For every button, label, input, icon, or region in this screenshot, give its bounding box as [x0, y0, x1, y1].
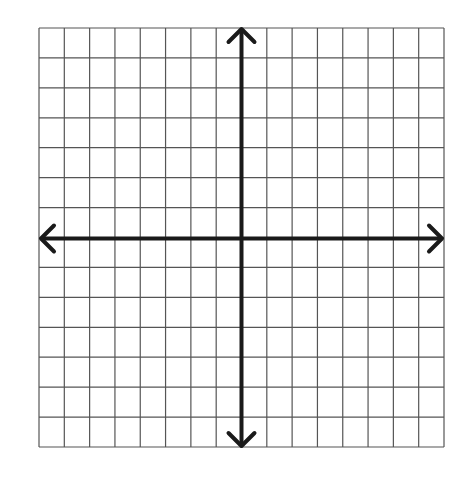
- axes: [41, 29, 442, 446]
- coordinate-plane: [0, 0, 464, 478]
